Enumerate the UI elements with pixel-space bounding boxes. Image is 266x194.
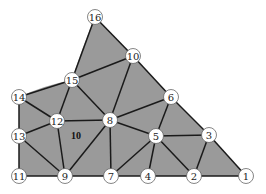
mesh-node: 6 <box>164 90 179 105</box>
node-label: 8 <box>107 115 113 126</box>
mesh-node: 14 <box>12 90 27 105</box>
mesh-node: 4 <box>141 169 156 184</box>
mesh-region <box>19 17 246 176</box>
mesh-edge <box>110 120 111 176</box>
mesh-node: 11 <box>12 169 27 184</box>
node-label: 14 <box>13 92 26 103</box>
mesh-node: 9 <box>58 169 73 184</box>
node-label: 4 <box>145 171 151 182</box>
mesh-node: 15 <box>65 73 80 88</box>
mesh-node: 16 <box>88 10 103 25</box>
mesh-node: 1 <box>239 169 254 184</box>
node-label: 5 <box>153 131 159 142</box>
mesh-edge <box>57 120 110 121</box>
mesh-node: 5 <box>149 129 164 144</box>
node-label: 7 <box>108 171 114 182</box>
node-label: 15 <box>66 75 79 86</box>
node-label: 11 <box>13 171 26 182</box>
node-label: 2 <box>191 171 197 182</box>
mesh-diagram: 10 12345678910111213141516 <box>0 0 266 194</box>
element-label: 10 <box>71 130 81 141</box>
mesh-node: 3 <box>202 128 217 143</box>
mesh-node: 13 <box>12 129 27 144</box>
node-label: 12 <box>51 116 64 127</box>
mesh-edge <box>156 135 209 136</box>
node-label: 6 <box>168 92 174 103</box>
mesh-node: 2 <box>187 169 202 184</box>
mesh-node: 7 <box>104 169 119 184</box>
node-label: 1 <box>243 171 249 182</box>
node-label: 3 <box>206 130 212 141</box>
mesh-node: 12 <box>50 114 65 129</box>
mesh-node: 10 <box>126 49 141 64</box>
node-label: 9 <box>62 171 68 182</box>
node-label: 13 <box>13 131 26 142</box>
mesh-node: 8 <box>103 113 118 128</box>
node-label: 10 <box>127 51 140 62</box>
node-label: 16 <box>89 12 102 23</box>
